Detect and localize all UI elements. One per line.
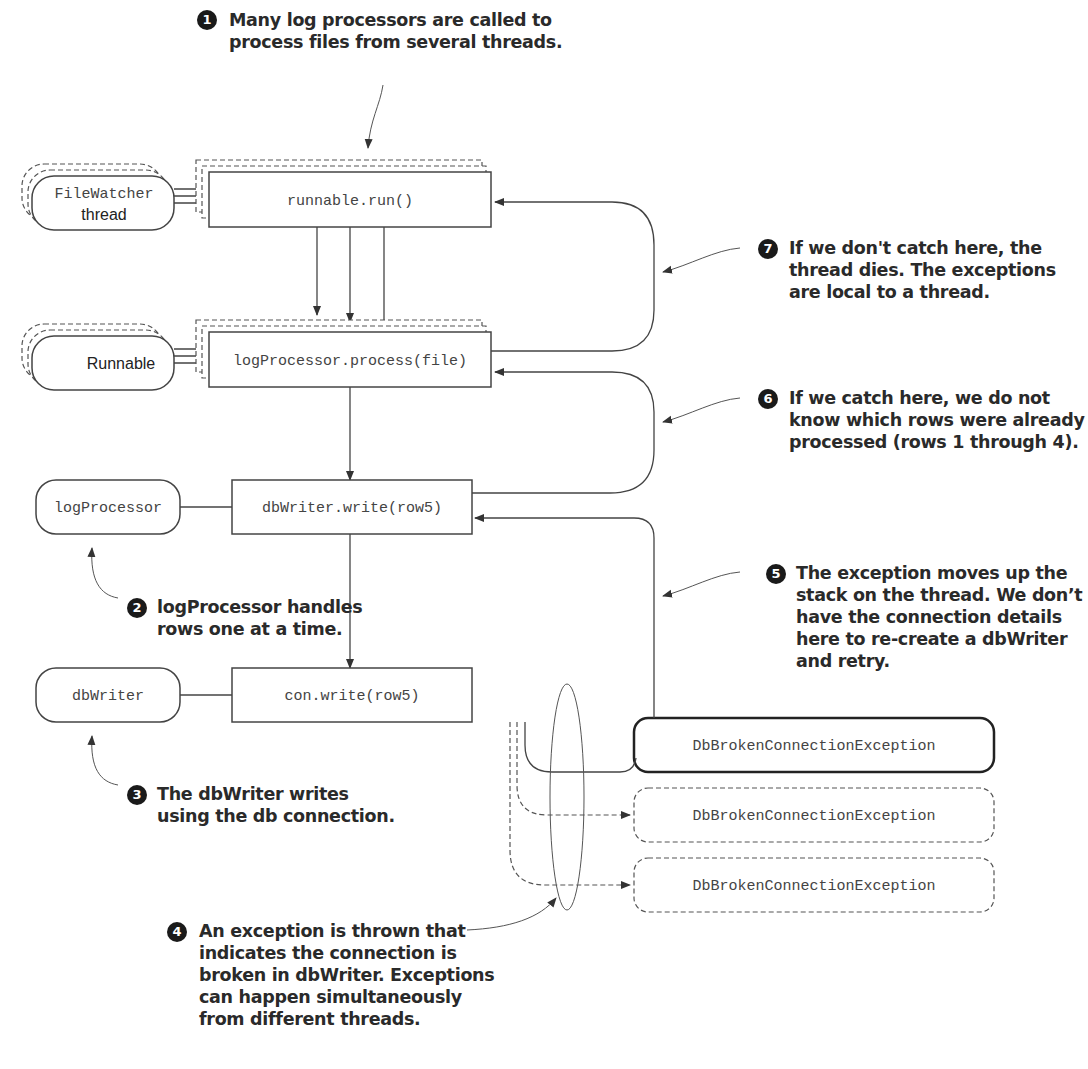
- propagate-to-run-path: [491, 202, 654, 351]
- write-call-label: dbWriter.write(row5): [262, 500, 442, 517]
- annotation-4-line-3: broken in dbWriter. Exceptions: [199, 964, 494, 986]
- annotation-6-pointer: [663, 398, 740, 422]
- process-call-label: logProcessor.process(file): [233, 353, 467, 370]
- runnable-label: Runnable: [87, 355, 156, 372]
- annotation-2-badge: 2: [127, 598, 147, 618]
- propagate-to-write-path: [475, 518, 654, 718]
- annotation-2-line-1: logProcessor handles: [157, 596, 362, 618]
- propagate-to-process-path: [472, 372, 654, 493]
- exception-label-1: DbBrokenConnectionException: [692, 738, 935, 755]
- annotation-4-badge: 4: [167, 922, 187, 942]
- annotation-5-line-1: The exception moves up the: [796, 562, 1082, 584]
- annotation-6-badge: 6: [758, 389, 778, 409]
- annotation-7-line-2: thread dies. The exceptions: [789, 259, 1056, 281]
- annotation-1-line-1: Many log processors are called to: [229, 9, 562, 31]
- annotation-7-pointer: [663, 248, 740, 272]
- annotation-4-line-4: can happen simultaneously: [199, 986, 494, 1008]
- annotation-5-line-2: stack on the thread. We don’t: [796, 584, 1082, 606]
- annotation-6-line-3: processed (rows 1 through 4).: [789, 431, 1085, 453]
- annotation-4-line-5: from different threads.: [199, 1008, 494, 1030]
- diagram-canvas: FileWatcher thread runnable.run() Runnab…: [0, 0, 1088, 1069]
- annotation-5-line-5: and retry.: [796, 650, 1082, 672]
- logprocessor-label: logProcessor: [54, 500, 162, 517]
- filewatcher-sublabel: thread: [81, 206, 126, 223]
- exception-2-path: [517, 722, 630, 815]
- annotation-7-line-3: are local to a thread.: [789, 281, 1056, 303]
- annotation-1-pointer: [368, 85, 383, 148]
- run-call-label: runnable.run(): [287, 193, 413, 210]
- annotation-5-line-4: here to re-create a dbWriter: [796, 628, 1082, 650]
- exception-label-2: DbBrokenConnectionException: [692, 808, 935, 825]
- annotation-4-line-1: An exception is thrown that: [199, 920, 494, 942]
- annotation-3-badge: 3: [127, 785, 147, 805]
- dbwriter-label: dbWriter: [72, 688, 144, 705]
- annotation-7-line-1: If we don't catch here, the: [789, 237, 1056, 259]
- annotation-1-line-2: process files from several threads.: [229, 31, 562, 53]
- annotation-5-pointer: [663, 572, 740, 596]
- annotation-6-line-1: If we catch here, we do not: [789, 387, 1085, 409]
- annotation-4-line-2: indicates the connection is: [199, 942, 494, 964]
- annotation-3-line-2: using the db connection.: [157, 805, 395, 827]
- annotation-5-badge: 5: [766, 564, 786, 584]
- annotation-2-pointer: [92, 548, 118, 598]
- simultaneous-exceptions-ellipse: [550, 684, 584, 910]
- con-write-call-label: con.write(row5): [284, 688, 419, 705]
- annotation-1-badge: 1: [197, 10, 217, 30]
- exception-3-path: [510, 722, 630, 885]
- annotation-5-line-3: have the connection details: [796, 606, 1082, 628]
- annotation-3-line-1: The dbWriter writes: [157, 783, 395, 805]
- filewatcher-label: FileWatcher: [54, 186, 153, 203]
- annotation-7-badge: 7: [758, 239, 778, 259]
- exception-label-3: DbBrokenConnectionException: [692, 878, 935, 895]
- annotation-3-pointer: [92, 736, 118, 785]
- annotation-2-line-2: rows one at a time.: [157, 618, 362, 640]
- annotation-6-line-2: know which rows were already: [789, 409, 1085, 431]
